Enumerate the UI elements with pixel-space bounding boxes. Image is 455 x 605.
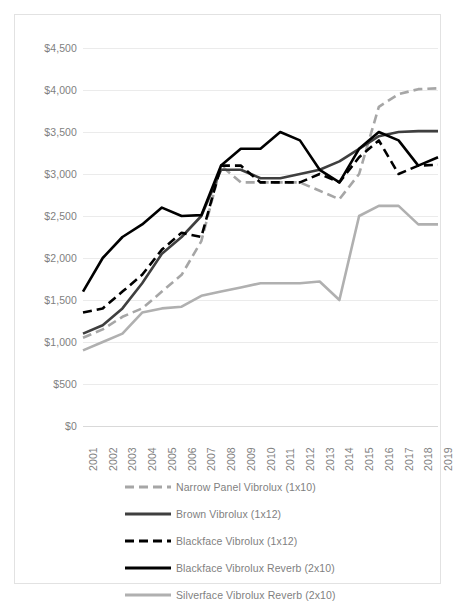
y-axis-tick-label: $0 [65,420,77,432]
x-axis-labels: 2001200220032004200520062007200820092010… [83,429,438,475]
legend-item[interactable]: Narrow Panel Vibrolux (1x10) [125,473,425,500]
y-axis-tick-label: $4,000 [44,84,77,96]
legend-item[interactable]: Silverface Vibrolux Reverb (2x10) [125,581,425,605]
y-axis-tick-label: $1,500 [44,294,77,306]
legend-swatch-icon [125,508,171,520]
x-axis-tick-label: 2006 [186,447,198,471]
x-axis-tick-label: 2010 [265,447,277,471]
x-axis-tick-label: 2005 [166,447,178,471]
x-axis-tick-label: 2003 [126,447,138,471]
x-axis-tick-label: 2016 [383,447,395,471]
legend-swatch-icon [125,562,171,574]
legend-item[interactable]: Blackface Vibrolux (1x12) [125,527,425,554]
y-axis-tick-label: $3,000 [44,168,77,180]
y-axis-labels: $4,500$4,000$3,500$3,000$2,500$2,000$1,5… [15,48,77,426]
legend-label: Silverface Vibrolux Reverb (2x10) [176,589,336,601]
x-axis-tick-label: 2011 [284,448,296,471]
x-axis-tick-label: 2015 [363,447,375,471]
x-axis-tick-label: 2014 [343,447,355,471]
y-axis-tick-label: $500 [53,378,77,390]
chart-legend: Narrow Panel Vibrolux (1x10)Brown Vibrol… [125,473,425,605]
series-line [83,131,438,333]
x-axis-tick-label: 2017 [403,447,415,471]
x-axis-tick-label: 2013 [324,447,336,471]
x-axis-tick-label: 2007 [205,447,217,471]
y-axis-tick-label: $1,000 [44,336,77,348]
legend-label: Blackface Vibrolux (1x12) [176,535,297,547]
series-line [83,140,438,312]
series-line [83,132,438,292]
x-axis-tick-label: 2008 [225,447,237,471]
y-axis-tick-label: $4,500 [44,42,77,54]
plot-area [83,48,438,426]
x-axis-tick-label: 2004 [146,447,158,471]
x-axis-tick-label: 2001 [87,447,99,471]
legend-label: Narrow Panel Vibrolux (1x10) [176,481,316,493]
legend-swatch-icon [125,589,171,601]
x-axis-tick-label: 2012 [304,447,316,471]
series-line [83,88,438,337]
series-lines [83,48,438,426]
y-axis-tick-label: $2,500 [44,210,77,222]
y-axis-tick-label: $3,500 [44,126,77,138]
chart-plot-frame: $4,500$4,000$3,500$3,000$2,500$2,000$1,5… [14,14,441,584]
x-axis-tick-label: 2009 [245,447,257,471]
legend-label: Blackface Vibrolux Reverb (2x10) [176,562,335,574]
x-axis-line [83,426,438,427]
legend-item[interactable]: Blackface Vibrolux Reverb (2x10) [125,554,425,581]
legend-swatch-icon [125,535,171,547]
legend-item[interactable]: Brown Vibrolux (1x12) [125,500,425,527]
x-axis-tick-label: 2018 [422,447,434,471]
x-axis-tick-label: 2019 [442,447,454,471]
legend-swatch-icon [125,481,171,493]
x-axis-tick-label: 2002 [107,447,119,471]
y-axis-tick-label: $2,000 [44,252,77,264]
legend-label: Brown Vibrolux (1x12) [176,508,281,520]
